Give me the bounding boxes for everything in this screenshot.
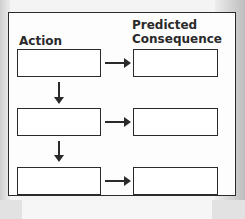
consequence-box-3[interactable] (133, 167, 218, 195)
background-page (22, 200, 212, 219)
arrow-right-icon (105, 180, 125, 182)
arrow-down-icon (58, 141, 60, 156)
consequence-box-2[interactable] (133, 108, 218, 136)
arrow-right-icon (105, 62, 125, 64)
diagram-frame: Action Predicted Consequence (8, 12, 236, 196)
action-box-2[interactable] (17, 108, 101, 136)
action-header: Action (19, 34, 62, 48)
consequence-box-1[interactable] (133, 49, 218, 77)
consequence-header-line2: Consequence (132, 32, 222, 46)
arrow-right-icon (105, 121, 125, 123)
consequence-header-line1: Predicted (132, 18, 197, 32)
action-box-3[interactable] (17, 167, 101, 195)
arrow-down-icon (58, 82, 60, 98)
action-box-1[interactable] (17, 49, 101, 77)
